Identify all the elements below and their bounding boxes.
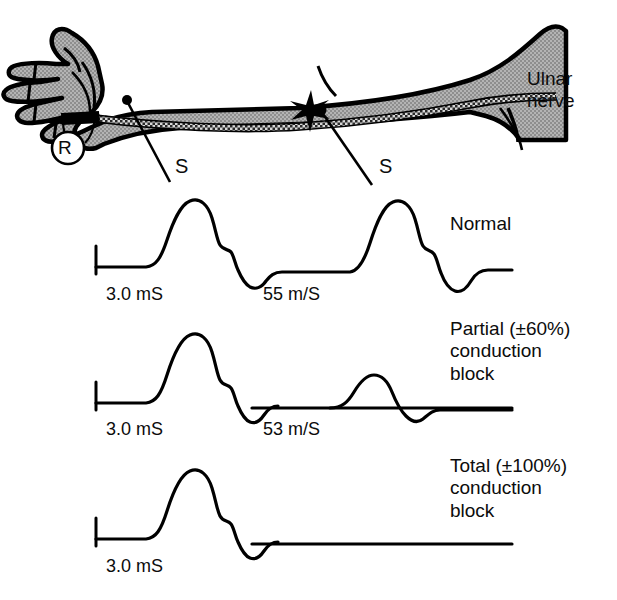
ulnar-nerve-conduction-figure: Ulnar nerve R S S Normal Partial (±60%) …: [0, 0, 617, 600]
waveform-total: [96, 470, 278, 559]
trace-label-normal: Normal: [450, 213, 511, 235]
distal-latency-total-block: 3.0 mS: [106, 556, 163, 577]
wrist-contour: [318, 66, 336, 96]
waveform-partial: [96, 334, 278, 423]
finger-crease-3: [34, 104, 36, 122]
stimulator-proximal-label: S: [379, 155, 392, 179]
arm-and-hand-illustration: [4, 27, 566, 185]
ulnar-nerve-label: Ulnar nerve: [527, 68, 575, 113]
stim-point-elbow: [316, 105, 327, 116]
finger-crease-2: [28, 84, 30, 102]
trace-label-total-block: Total (±100%) conduction block: [450, 455, 567, 522]
recording-electrode-label: R: [58, 137, 72, 159]
distal-latency-partial-block: 3.0 mS: [106, 419, 163, 440]
stimulator-distal-label: S: [175, 155, 188, 179]
conduction-velocity-partial-block: 53 m/S: [263, 419, 320, 440]
conduction-velocity-normal: 55 m/S: [263, 284, 320, 305]
finger-crease-1: [34, 62, 36, 80]
distal-latency-normal: 3.0 mS: [106, 284, 163, 305]
trace-label-partial-block: Partial (±60%) conduction block: [450, 318, 570, 385]
